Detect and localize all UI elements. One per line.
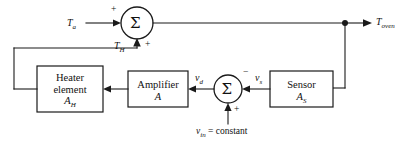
sign-bottom-sum-bottom-input: + xyxy=(234,105,239,115)
arrowhead-sum-to-amplifier xyxy=(188,85,196,92)
arrowhead-ambient-to-sum xyxy=(113,19,121,26)
amplifier-gain: A xyxy=(128,91,188,103)
arrowhead-oven-output xyxy=(363,19,372,26)
sensor-gain: AS xyxy=(270,91,333,108)
arrowhead-amplifier-to-heater xyxy=(103,85,111,92)
arrowhead-reference-to-sum xyxy=(224,103,231,111)
label-oven-temperature: Toven xyxy=(376,17,395,30)
sign-top-sum-bottom-input: + xyxy=(145,40,150,50)
label-sensor-output-voltage: vs xyxy=(255,73,262,86)
label-reference-constant: vin = constant xyxy=(196,127,247,139)
heater-label-line2: element xyxy=(37,84,103,96)
heater-label-line1: Heater xyxy=(37,72,103,84)
amplifier-block-label: Amplifier A xyxy=(128,79,188,102)
summing-junction-bottom-sigma: Σ xyxy=(222,82,233,97)
sign-top-sum-left-input: + xyxy=(111,5,116,15)
heater-block-label: Heater element AH xyxy=(37,72,103,112)
heater-gain: AH xyxy=(37,95,103,112)
summing-junction-top-sigma: Σ xyxy=(130,16,141,31)
label-ambient-temperature: Ta xyxy=(67,18,76,31)
amplifier-label-line1: Amplifier xyxy=(128,79,188,91)
sensor-block-label: Sensor AS xyxy=(270,79,333,107)
arrowhead-sensor-to-sum xyxy=(242,85,250,92)
sign-bottom-sum-right-input: − xyxy=(243,68,248,78)
sensor-label-line1: Sensor xyxy=(270,79,333,91)
label-amplifier-input-voltage: vd xyxy=(195,73,203,86)
label-heater-temperature: TH xyxy=(114,41,125,54)
block-diagram-canvas: Σ Σ Heater element AH Amplifier A Sensor… xyxy=(0,0,408,147)
